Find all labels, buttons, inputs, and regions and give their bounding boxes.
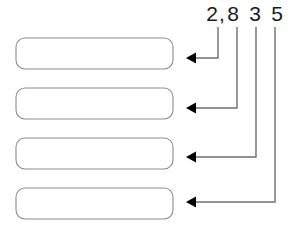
answer-box-3[interactable] xyxy=(16,138,173,169)
connector-group xyxy=(195,27,275,202)
arrow-left-icon-3 xyxy=(186,152,196,163)
answer-box-group xyxy=(16,38,173,219)
answer-box-2[interactable] xyxy=(16,88,173,119)
digit-8: 8 xyxy=(227,2,239,25)
digit-5: 5 xyxy=(271,2,283,25)
number-label: 2 , 8 3 5 xyxy=(206,2,283,25)
answer-box-4[interactable] xyxy=(16,188,173,219)
arrow-left-icon-4 xyxy=(186,197,196,208)
arrowhead-group xyxy=(186,53,196,208)
connector-hundreds xyxy=(195,27,237,108)
place-value-diagram: 2 , 8 3 5 xyxy=(0,0,293,229)
comma: , xyxy=(219,2,225,25)
connector-thousands xyxy=(195,27,218,58)
arrow-left-icon-1 xyxy=(186,53,196,64)
answer-box-1[interactable] xyxy=(16,38,173,69)
diagram-canvas: 2 , 8 3 5 xyxy=(0,0,293,229)
digit-3: 3 xyxy=(249,2,261,25)
connector-ones xyxy=(195,27,275,202)
connector-tens xyxy=(195,27,256,157)
arrow-left-icon-2 xyxy=(186,103,196,114)
digit-2: 2 xyxy=(206,2,218,25)
